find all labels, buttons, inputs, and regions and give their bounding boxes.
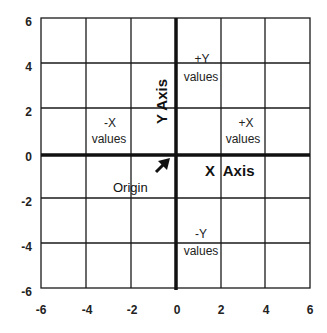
y-tick: -6	[21, 285, 32, 299]
x-axis-label: X Axis	[205, 162, 254, 179]
x-tick: -6	[36, 303, 47, 317]
y-tick: 2	[25, 105, 32, 119]
y-tick: 4	[25, 60, 32, 74]
coordinate-plane: 6 4 2 0 -2 -4 -6 -6 -4 -2 0 2 4 6 -X val…	[0, 0, 327, 333]
y-axis-label: Y Axis	[153, 79, 170, 124]
pos-x-label-values: values	[226, 132, 261, 146]
y-tick: 6	[25, 15, 32, 29]
x-tick: 2	[218, 303, 225, 317]
y-tick: 0	[25, 150, 32, 164]
pos-y-label-values: values	[184, 70, 219, 84]
neg-x-label: -X	[104, 116, 116, 130]
origin-arrow-icon	[156, 158, 170, 172]
pos-y-label: +Y	[194, 52, 209, 66]
neg-x-label-values: values	[92, 132, 127, 146]
y-tick: -2	[21, 195, 32, 209]
x-tick: -4	[82, 303, 93, 317]
y-tick: -4	[21, 240, 32, 254]
pos-x-label: +X	[238, 116, 253, 130]
x-tick: 4	[263, 303, 270, 317]
x-tick-labels: -6 -4 -2 0 2 4 6	[36, 303, 314, 317]
y-tick-labels: 6 4 2 0 -2 -4 -6	[21, 15, 32, 299]
x-tick: 0	[174, 303, 181, 317]
neg-y-label-values: values	[184, 244, 219, 258]
x-tick: -2	[127, 303, 138, 317]
origin-label: Origin	[113, 180, 148, 195]
x-tick: 6	[307, 303, 314, 317]
neg-y-label: -Y	[195, 227, 207, 241]
